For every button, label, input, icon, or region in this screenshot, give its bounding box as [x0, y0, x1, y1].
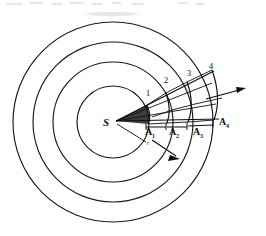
- area-label-2-sub: 2: [176, 133, 179, 139]
- sector-cap-2: [166, 93, 169, 123]
- area-label-3: A 3: [193, 126, 203, 139]
- area-label-4: A 4: [219, 116, 229, 129]
- area-label-4-sub: 4: [226, 123, 229, 129]
- area-label-3-sub: 3: [200, 133, 203, 139]
- ray-number-4: 4: [209, 61, 214, 71]
- radius-label: r: [147, 140, 150, 146]
- area-label-1-sub: 1: [152, 133, 155, 139]
- wavefront-circle-3: [33, 42, 193, 202]
- sector-caps: [147, 70, 218, 124]
- area-label-1: A 1: [145, 126, 155, 139]
- sector-edges: [147, 70, 222, 124]
- ray-number-2: 2: [164, 75, 169, 85]
- ray-number-3: 3: [187, 68, 192, 78]
- apex-wedge: [116, 105, 149, 124]
- inverse-square-law-diagram: S 1 2 3 4 A 1 r A 2 A 3 A 4: [0, 0, 266, 236]
- wavefront-circle-2: [53, 62, 173, 182]
- scan-artifacts: [6, 2, 204, 16]
- source-label: S: [103, 116, 109, 128]
- propagation-arrow: [206, 87, 246, 99]
- area-base-ticks: [146, 120, 213, 130]
- ray-number-1: 1: [146, 88, 151, 98]
- radius-leader: [117, 124, 146, 142]
